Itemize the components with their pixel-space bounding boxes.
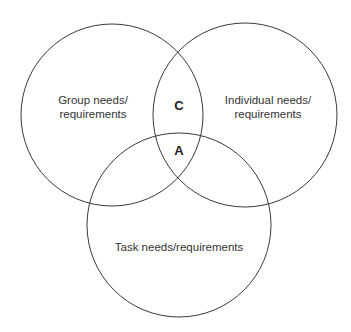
intersection-c-label: C [174,98,184,113]
intersection-a-label: A [174,143,184,158]
group-label-line2: requirements [59,108,126,120]
task-label: Task needs/requirements [115,241,244,253]
task-circle [87,133,271,317]
individual-label-line2: requirements [234,108,301,120]
group-label-line1: Group needs/ [58,94,128,106]
venn-diagram: Group needs/ requirements Individual nee… [0,0,351,332]
individual-label-line1: Individual needs/ [225,94,312,106]
